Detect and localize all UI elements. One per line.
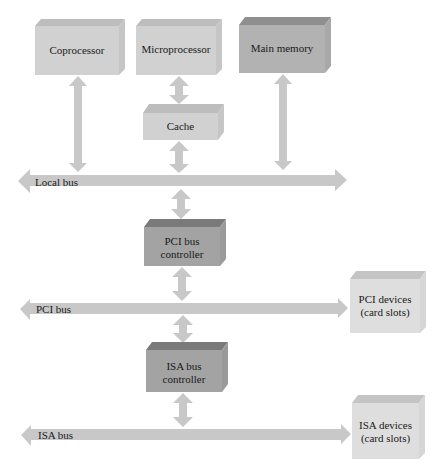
isa-devices-label-line2: (card slots) <box>352 432 419 445</box>
arrows-top <box>69 74 292 219</box>
pci-devices-label-line2: (card slots) <box>350 306 420 319</box>
isa-devices-label: ISA devices (card slots) <box>352 419 419 445</box>
pci-controller-label-line1: PCI bus <box>144 235 220 248</box>
local-bus-label: Local bus <box>35 176 78 188</box>
isa-controller-bottom-arrow <box>173 393 193 427</box>
diagram-canvas <box>0 0 446 474</box>
coprocessor-label: Coprocessor <box>35 44 119 57</box>
isa-controller-label: ISA bus controller <box>146 360 222 386</box>
isa-controller-label-line2: controller <box>146 373 222 386</box>
pci-controller-label-line2: controller <box>144 248 220 261</box>
microprocessor-label: Microprocessor <box>136 43 216 56</box>
pci-devices-label: PCI devices (card slots) <box>350 293 420 319</box>
isa-devices-label-line1: ISA devices <box>352 419 419 432</box>
pci-bus-label: PCI bus <box>36 303 71 315</box>
pci-devices-label-line1: PCI devices <box>350 293 420 306</box>
isa-bus-label: ISA bus <box>38 429 73 441</box>
pci-controller-arrow <box>172 267 192 301</box>
pci-controller-label: PCI bus controller <box>144 235 220 261</box>
isa-controller-top-arrow <box>173 315 193 343</box>
isa-controller-label-line1: ISA bus <box>146 360 222 373</box>
cache-label: Cache <box>143 120 218 133</box>
main-memory-label: Main memory <box>239 42 325 55</box>
